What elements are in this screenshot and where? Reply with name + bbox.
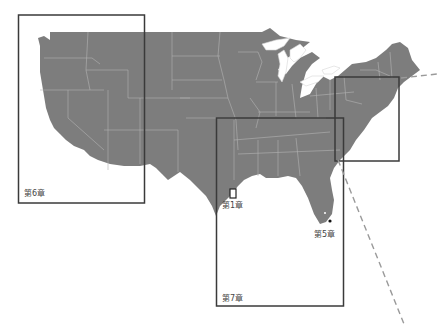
chapter5-marker bbox=[328, 219, 331, 222]
label-chapter-5: 第5章 bbox=[314, 231, 335, 239]
florida-dot bbox=[324, 212, 326, 214]
label-chapter-6: 第6章 bbox=[24, 190, 45, 198]
us-map bbox=[0, 0, 437, 326]
region-frame-ch1 bbox=[230, 189, 236, 198]
us-landmass bbox=[38, 28, 420, 224]
leader-line-southeast bbox=[338, 160, 404, 324]
label-chapter-1: 第1章 bbox=[222, 202, 243, 210]
label-chapter-7: 第7章 bbox=[222, 295, 243, 303]
